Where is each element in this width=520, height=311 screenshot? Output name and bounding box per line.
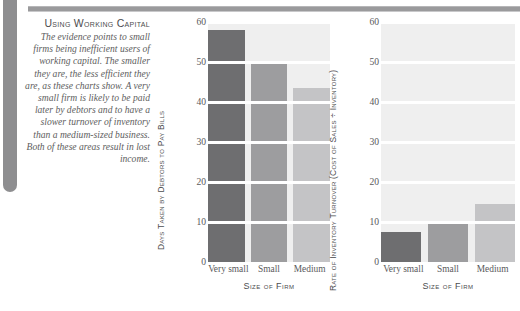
x-tick-label: Small (249, 264, 290, 275)
gridline (208, 221, 330, 224)
y-tick-label: 0 (357, 257, 379, 267)
gridline (381, 101, 515, 104)
gridline (381, 61, 515, 64)
bar (208, 30, 245, 262)
caption-title: Using Working Capital (22, 17, 150, 29)
y-tick-label: 10 (184, 217, 206, 227)
gridline (208, 141, 330, 144)
y-tick-label: 20 (357, 177, 379, 187)
gridline (381, 181, 515, 184)
left-accent-bar (3, 0, 17, 192)
chart-1-y-axis-ticks: 6050403020100 (162, 0, 206, 311)
chart-1-x-axis-title: Size of Firm (208, 281, 330, 291)
x-tick-label: Very small (208, 264, 249, 275)
chart-2-x-axis-title: Size of Firm (381, 281, 515, 291)
x-tick-label: Medium (289, 264, 330, 275)
y-tick-label: 30 (357, 137, 379, 147)
gridline (381, 141, 515, 144)
chart-1-x-axis-ticks: Very smallSmallMedium (208, 264, 330, 275)
y-tick-label: 20 (184, 177, 206, 187)
x-tick-label: Medium (470, 264, 515, 275)
gridline (381, 21, 515, 24)
y-tick-label: 0 (184, 257, 206, 267)
chart-days-taken-by-debtors: Days Taken by Debtors to Pay Bills 60504… (150, 0, 335, 311)
y-tick-label: 60 (357, 17, 379, 27)
y-tick-label: 40 (357, 97, 379, 107)
bar (475, 204, 515, 262)
x-tick-label: Very small (381, 264, 426, 275)
chart-1-plot-area (208, 22, 330, 262)
y-tick-label: 10 (357, 217, 379, 227)
chart-rate-of-inventory-turnover: Rate of Inventory Turnover (Cost of Sale… (325, 0, 520, 311)
x-tick-label: Small (426, 264, 471, 275)
y-tick-label: 30 (184, 137, 206, 147)
gridline (208, 21, 330, 24)
caption-body: The evidence points to small firms being… (22, 31, 150, 165)
bar (251, 62, 288, 262)
y-tick-label: 60 (184, 17, 206, 27)
y-tick-label: 50 (357, 57, 379, 67)
gridline (381, 221, 515, 224)
bar (428, 222, 468, 262)
y-tick-label: 40 (184, 97, 206, 107)
y-tick-label: 50 (184, 57, 206, 67)
gridline (208, 101, 330, 104)
caption-block: Using Working Capital The evidence point… (22, 17, 150, 165)
chart-2-y-axis-ticks: 6050403020100 (335, 0, 379, 311)
chart-2-plot-area (381, 22, 515, 262)
gridline (208, 181, 330, 184)
gridline (208, 61, 330, 64)
chart-2-x-axis-ticks: Very smallSmallMedium (381, 264, 515, 275)
bar (381, 232, 421, 262)
